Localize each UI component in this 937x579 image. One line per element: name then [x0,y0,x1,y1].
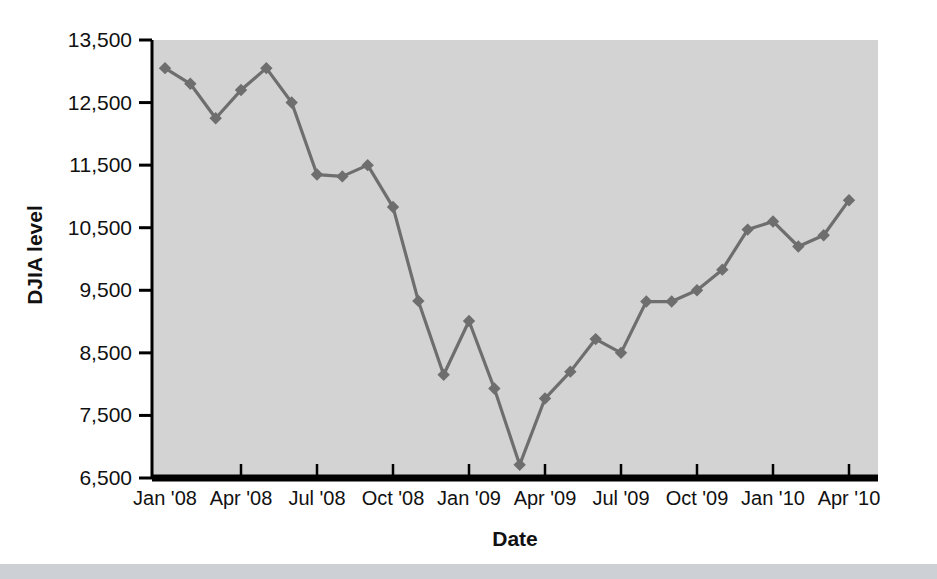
djia-line-chart: 6,5007,5008,5009,50010,50011,50012,50013… [0,0,937,579]
bottom-band [0,564,937,579]
x-axis-tick-label: Jan '10 [741,487,805,509]
y-axis-tick-label: 13,500 [68,28,132,51]
y-axis-tick-label: 12,500 [68,91,132,114]
x-axis-tick-label: Oct '08 [362,487,425,509]
y-axis-title: DJIA level [23,205,46,305]
y-axis-tick-marks [139,40,152,478]
y-axis-tick-label: 8,500 [79,341,132,364]
x-axis-tick-labels: Jan '08Apr '08Jul '08Oct '08Jan '09Apr '… [133,487,880,509]
x-axis-tick-label: Jan '09 [437,487,501,509]
y-axis-tick-labels: 6,5007,5008,5009,50010,50011,50012,50013… [68,28,132,489]
x-axis-tick-label: Apr '08 [210,487,273,509]
x-axis-tick-label: Apr '10 [818,487,881,509]
x-axis-tick-label: Jan '08 [133,487,197,509]
y-axis-tick-label: 11,500 [69,153,132,176]
x-axis-tick-label: Oct '09 [666,487,729,509]
plot-background [152,40,878,478]
y-axis-tick-label: 9,500 [79,278,132,301]
x-axis-title: Date [492,527,538,550]
x-axis-tick-label: Jul '08 [288,487,345,509]
y-axis-tick-label: 7,500 [79,403,132,426]
y-axis-tick-label: 6,500 [79,466,132,489]
x-axis-tick-label: Apr '09 [514,487,577,509]
x-axis-tick-label: Jul '09 [592,487,649,509]
chart-figure: 6,5007,5008,5009,50010,50011,50012,50013… [0,0,937,579]
y-axis-tick-label: 10,500 [68,216,132,239]
